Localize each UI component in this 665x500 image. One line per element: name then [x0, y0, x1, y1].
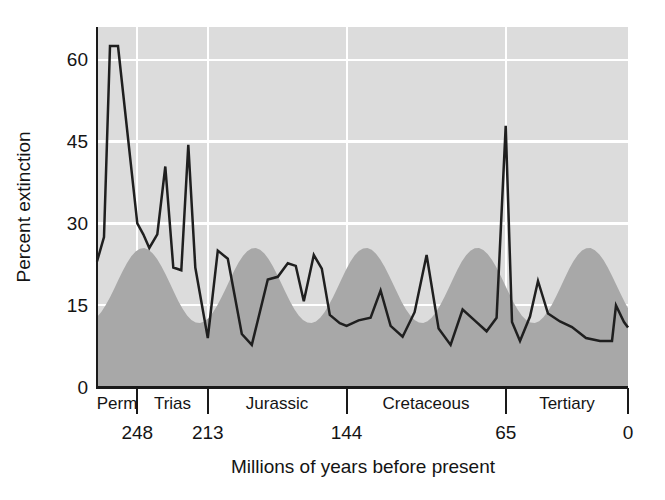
boundary-age-labels: 248 213 144 65 0 — [121, 422, 633, 443]
y-tick-label-0: 0 — [77, 377, 88, 398]
y-tick-label-30: 30 — [67, 213, 88, 234]
period-label-perm: Perm — [97, 394, 138, 413]
y-tick-label-15: 15 — [67, 295, 88, 316]
boundary-label-144: 144 — [331, 422, 363, 443]
y-tick-label-60: 60 — [67, 49, 88, 70]
extinction-chart-figure: THE NEMESIS BID AND OTHER EFFECTS 0 — [0, 0, 665, 500]
boundary-label-248: 248 — [121, 422, 153, 443]
boundary-label-65: 65 — [495, 422, 516, 443]
period-label-tertiary: Tertiary — [539, 394, 595, 413]
y-axis-title: Percent extinction — [13, 131, 34, 282]
period-label-cretaceous: Cretaceous — [383, 394, 470, 413]
period-label-trias: Trias — [154, 394, 191, 413]
x-axis-title: Millions of years before present — [231, 456, 496, 477]
chart-canvas: THE NEMESIS BID AND OTHER EFFECTS 0 — [0, 0, 665, 500]
boundary-label-0: 0 — [623, 422, 634, 443]
period-label-jurassic: Jurassic — [246, 394, 309, 413]
boundary-label-213: 213 — [192, 422, 224, 443]
y-tick-label-45: 45 — [67, 131, 88, 152]
y-axis-tick-labels: 0 15 30 45 60 — [67, 49, 88, 398]
